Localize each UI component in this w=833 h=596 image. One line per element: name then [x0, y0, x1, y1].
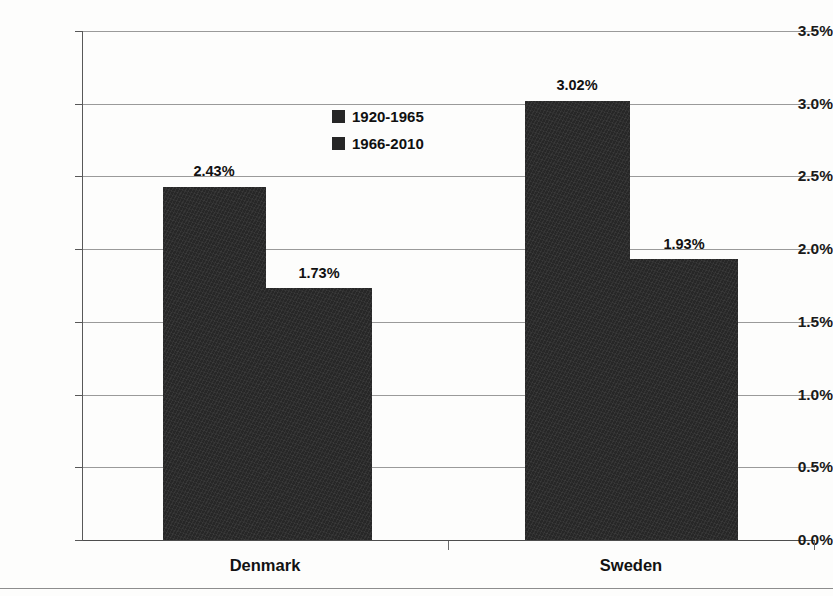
page-bottom-rule: [0, 588, 833, 589]
x-axis-label-denmark: Denmark: [230, 556, 301, 575]
legend-item-1920-1965: 1920-1965: [332, 103, 424, 130]
bar-denmark-1966-2010: [266, 288, 372, 540]
x-axis-label-sweden: Sweden: [600, 556, 662, 575]
y-tick-3-5: [75, 31, 83, 32]
bar-value-denmark-1920-1965: 2.43%: [193, 163, 234, 179]
gridline-2-5: [82, 176, 815, 177]
bar-value-sweden-1920-1965: 3.02%: [556, 77, 597, 93]
chart-legend: 1920-1965 1966-2010: [332, 103, 424, 157]
bar-value-sweden-1966-2010: 1.93%: [663, 236, 704, 252]
y-axis-label-3-5: 3.5%: [769, 22, 833, 40]
y-axis-label-2-5: 2.5%: [769, 167, 833, 185]
legend-label-1966-2010: 1966-2010: [352, 135, 424, 152]
legend-swatch-icon-1920-1965: [332, 110, 345, 123]
plot-area: 2.43% 1.73% 3.02% 1.93%: [82, 31, 815, 540]
y-axis-label-1-5: 1.5%: [769, 313, 833, 331]
legend-item-1966-2010: 1966-2010: [332, 130, 424, 157]
y-tick-1-0: [75, 395, 83, 396]
legend-swatch-icon-1966-2010: [332, 137, 345, 150]
gridline-3-0: [82, 104, 815, 105]
chart-title: [0, 0, 833, 3]
y-axis-label-2-0: 2.0%: [769, 240, 833, 258]
bar-denmark-1920-1965: [163, 187, 266, 540]
bar-sweden-1966-2010: [630, 259, 738, 540]
bar-sweden-1920-1965: [525, 101, 630, 540]
gridline-3-5: [82, 31, 815, 32]
x-tick-middle: [448, 541, 449, 550]
y-tick-0-0: [75, 540, 83, 541]
bar-value-denmark-1966-2010: 1.73%: [298, 265, 339, 281]
y-tick-0-5: [75, 467, 83, 468]
y-axis-label-1-0: 1.0%: [769, 386, 833, 404]
y-axis-label-3-0: 3.0%: [769, 95, 833, 113]
legend-label-1920-1965: 1920-1965: [352, 108, 424, 125]
y-axis-label-0-0: 0.0%: [769, 531, 833, 549]
y-tick-2-0: [75, 249, 83, 250]
y-axis-line: [82, 31, 83, 541]
chart-page: 2.43% 1.73% 3.02% 1.93% 3.5% 3.0% 2.5% 2…: [0, 0, 833, 596]
y-tick-3-0: [75, 104, 83, 105]
x-tick-right: [814, 541, 815, 550]
y-axis-label-0-5: 0.5%: [769, 458, 833, 476]
y-tick-1-5: [75, 322, 83, 323]
y-tick-2-5: [75, 176, 83, 177]
